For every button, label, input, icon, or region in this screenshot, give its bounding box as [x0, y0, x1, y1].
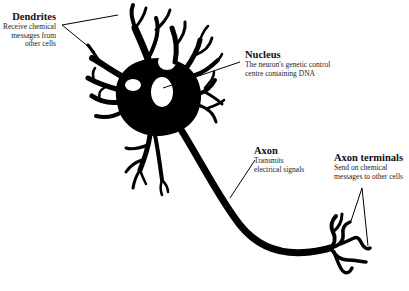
axon-terminals-desc-2: messages to other cells [334, 173, 403, 182]
nucleus-label: Nucleus The neuron's genetic control cen… [245, 49, 330, 78]
neuron-illustration [0, 0, 409, 291]
axon-label: Axon Transmits electrical signals [254, 145, 304, 174]
dendrites-desc-3: other cells [0, 40, 56, 49]
nucleus-shape [151, 77, 173, 107]
dendrites-label: Dendrites Receive chemical messages from… [0, 11, 56, 49]
nucleus-desc-2: centre containing DNA [245, 70, 330, 79]
axon-leader [230, 160, 255, 198]
axon-terminals-label: Axon terminals Send on chemical messages… [334, 152, 403, 181]
axon-desc-2: electrical signals [254, 166, 304, 175]
